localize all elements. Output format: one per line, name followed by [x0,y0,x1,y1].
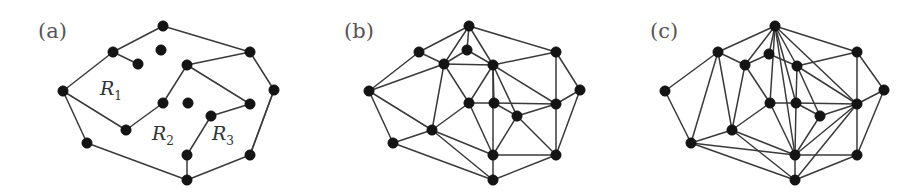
graph-vertex [791,98,801,108]
graph-vertex [686,138,696,148]
graph-vertex [815,111,825,121]
graph-vertex [183,98,193,108]
graph-edge [517,116,556,155]
graph-edge [517,104,556,116]
graph-canvas-b: (b) [306,0,612,195]
graph-edge [795,116,820,155]
graph-edge [796,103,857,104]
graph-figure: R1R2R3(a)(b)(c) [0,0,919,195]
graph-vertex [660,86,670,96]
graph-edge [419,26,469,52]
graph-vertex [388,138,398,148]
graph-vertex [439,59,449,69]
graph-edge [797,52,857,66]
graph-edge [444,64,493,65]
graph-vertex [740,60,750,70]
graph-vertex [121,125,131,135]
graph-vertex [414,47,424,57]
graph-vertex [464,98,474,108]
graph-edge [493,52,556,65]
graph-vertex [158,21,168,31]
graph-edge [556,90,580,155]
graph-vertex [156,45,166,55]
graph-edge [857,52,884,90]
region-label-r3: R3 [211,122,234,148]
panel-label-a: (a) [38,19,67,43]
panel-b: (b) [306,0,612,195]
graph-vertex [790,150,800,160]
graph-edge [795,104,857,155]
graph-vertex [462,45,472,55]
edge-group [369,26,580,180]
graph-vertex [790,175,800,185]
graph-vertex [551,150,561,160]
graph-vertex [58,86,68,96]
graph-edge [795,103,796,155]
graph-vertex [245,150,255,160]
graph-vertex [770,21,780,31]
graph-vertex [512,111,522,121]
graph-edge [494,103,556,104]
graph-edge [187,116,211,155]
graph-edge [665,52,718,91]
graph-edge [163,65,187,103]
graph-canvas-a: R1R2R3(a) [0,0,306,195]
graph-vertex [764,49,774,59]
edge-group [63,26,274,180]
graph-edge [393,130,432,143]
graph-vertex [488,60,498,70]
graph-edge [187,52,250,65]
graph-vertex [575,85,585,95]
graph-edge [444,64,469,103]
graph-edge [250,52,274,90]
vertex-group [364,21,585,185]
graph-edge [732,130,795,180]
graph-edge [211,104,250,116]
graph-edge [113,26,163,52]
region-label-r1: R1 [99,77,122,103]
graph-vertex [489,98,499,108]
graph-edge [795,104,857,180]
graph-vertex [792,61,802,71]
vertex-group [58,21,279,185]
graph-vertex [133,59,143,69]
graph-edge [432,64,444,130]
graph-edge [493,155,556,180]
graph-vertex [206,111,216,121]
graph-vertex [879,85,889,95]
panel-a: R1R2R3(a) [0,0,306,195]
graph-edge [163,26,250,52]
graph-edge [718,52,732,130]
graph-edge [691,130,732,143]
graph-edge [187,155,250,180]
graph-vertex [364,86,374,96]
graph-vertex [713,47,723,57]
graph-edge [556,52,580,90]
graph-edge [732,103,770,130]
graph-edge [187,65,250,104]
graph-vertex [852,47,862,57]
graph-edge [250,90,274,155]
graph-edge [369,64,444,91]
graph-edge [369,52,419,91]
graph-vertex [245,99,255,109]
graph-edge [432,103,469,130]
graph-edge [775,26,857,104]
graph-vertex [245,47,255,57]
vertex-group [660,21,889,185]
graph-vertex [765,98,775,108]
graph-edge [732,65,745,130]
graph-edge [493,116,517,155]
panel-label-b: (b) [344,19,374,43]
graph-canvas-c: (c) [612,0,918,195]
panel-c: (c) [612,0,918,195]
graph-vertex [551,47,561,57]
graph-edge [857,90,884,155]
graph-edge [469,65,493,103]
graph-edge [432,130,493,180]
graph-vertex [82,138,92,148]
graph-vertex [464,21,474,31]
graph-vertex [727,125,737,135]
graph-vertex [108,47,118,57]
graph-vertex [852,150,862,160]
